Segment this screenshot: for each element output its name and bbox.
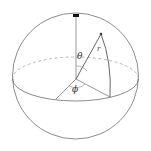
meridian-arc	[101, 34, 110, 97]
phi-label: ϕ	[72, 84, 78, 94]
projection-line	[76, 79, 110, 97]
north-pole-marker	[73, 14, 79, 17]
sphere-outline	[13, 13, 139, 139]
theta-label: θ	[77, 51, 83, 61]
spherical-coordinates-diagram: θ r ϕ	[0, 0, 151, 151]
r-label: r	[97, 45, 101, 53]
equator-back-dashed	[13, 57, 139, 79]
